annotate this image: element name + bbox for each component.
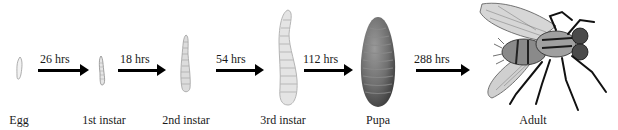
duration-label: 18 hrs [120, 52, 150, 67]
duration-label: 112 hrs [303, 52, 338, 67]
arrow-icon [216, 69, 257, 72]
stage-label-3rd-instar: 3rd instar [260, 113, 306, 128]
duration-label: 54 hrs [216, 52, 246, 67]
stage-label-adult: Adult [519, 113, 546, 128]
duration-label: 288 hrs [414, 52, 450, 67]
adult-fly-illustration [476, 0, 616, 116]
duration-label: 26 hrs [40, 52, 70, 67]
arrow-icon [416, 69, 463, 72]
egg-illustration [14, 56, 26, 82]
arrow-icon [38, 69, 82, 72]
stage-label-1st-instar: 1st instar [82, 113, 126, 128]
arrow-icon [304, 69, 346, 72]
second-instar-larva-illustration [176, 34, 194, 94]
stage-label-2nd-instar: 2nd instar [162, 113, 210, 128]
stage-label-pupa: Pupa [366, 113, 390, 128]
third-instar-larva-illustration [270, 8, 302, 108]
stage-label-egg: Egg [9, 113, 28, 128]
arrow-icon [118, 69, 159, 72]
pupa-illustration [359, 16, 397, 108]
first-instar-larva-illustration [97, 55, 107, 87]
